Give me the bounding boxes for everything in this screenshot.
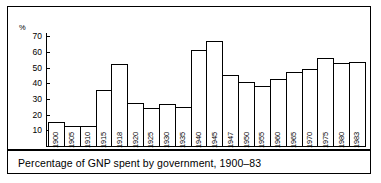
caption-divider	[8, 149, 370, 151]
bar-category-label: 1920	[132, 132, 140, 148]
bar-category-label: 1975	[322, 132, 330, 148]
bar: 1970	[302, 69, 319, 146]
bar: 1940	[191, 50, 208, 146]
y-axis-tick-label: 40	[12, 79, 42, 88]
bar-category-label: 1910	[84, 132, 92, 148]
y-axis-tick-label: 70	[12, 32, 42, 41]
bar: 1918	[111, 64, 128, 146]
bar: 1915	[96, 90, 113, 146]
bar-category-label: 1945	[211, 132, 219, 148]
bar: 1945	[206, 41, 223, 146]
bar: 1920	[127, 103, 144, 146]
bar-category-label: 1940	[195, 132, 203, 148]
y-axis-tick-label: 30	[12, 95, 42, 104]
bar-category-label: 1955	[258, 132, 266, 148]
bar: 1975	[317, 58, 334, 146]
bar: 1935	[175, 107, 192, 146]
y-axis-unit-label: %	[19, 24, 25, 32]
bar: 1980	[333, 63, 350, 146]
chart-caption: Percentage of GNP spent by government, 1…	[18, 157, 261, 169]
x-axis-line	[46, 146, 366, 147]
bar-category-label: 1918	[116, 132, 124, 148]
bar: 1983	[349, 62, 366, 146]
bar: 1947	[222, 75, 239, 146]
bar-category-label: 1965	[290, 132, 298, 148]
y-axis-tick-label: 20	[12, 111, 42, 120]
bar-category-label: 1935	[179, 132, 187, 148]
bar-category-label: 1950	[243, 132, 251, 148]
bar: 1950	[238, 82, 255, 146]
y-axis-tick-label: 60	[12, 48, 42, 57]
bar: 1925	[143, 108, 160, 146]
bar: 1900	[48, 122, 65, 146]
bar-category-label: 1947	[227, 132, 235, 148]
bar-series: 1900190519101915191819201925193019351940…	[48, 33, 365, 146]
bar: 1930	[159, 104, 176, 146]
chart-plot-area: % 10203040506070 19001905191019151918192…	[8, 7, 370, 149]
y-axis-tick-label: 50	[12, 64, 42, 73]
bar: 1965	[286, 72, 303, 146]
bar-category-label: 1983	[353, 132, 361, 148]
bar-category-label: 1930	[163, 132, 171, 148]
bar: 1955	[254, 86, 271, 146]
bar-category-label: 1900	[52, 132, 60, 148]
bar-category-label: 1970	[306, 132, 314, 148]
bar: 1905	[64, 126, 81, 146]
bar-category-label: 1960	[274, 132, 282, 148]
bar-category-label: 1980	[338, 132, 346, 148]
bar: 1910	[80, 126, 97, 146]
y-axis-tick-label: 10	[12, 126, 42, 135]
figure-frame: % 10203040506070 19001905191019151918192…	[7, 6, 371, 174]
bar-category-label: 1915	[100, 132, 108, 148]
bar: 1960	[270, 79, 287, 146]
bar-category-label: 1925	[147, 132, 155, 148]
bar-category-label: 1905	[68, 132, 76, 148]
